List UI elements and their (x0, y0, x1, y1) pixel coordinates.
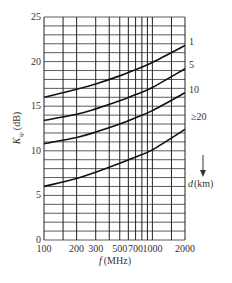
grid (44, 17, 185, 240)
x-tick-label: 2000 (175, 243, 195, 254)
series-label: 5 (189, 59, 194, 70)
x-tick-label: 300 (88, 243, 103, 254)
y-axis-label: Ksp(dB) (11, 112, 24, 145)
series-label: ≥20 (191, 111, 207, 122)
x-tick-label: 700 (128, 243, 143, 254)
curve-d-1 (44, 46, 185, 98)
x-tick-label: 100 (37, 243, 52, 254)
chart: 0510152025 10020030050070010002000 1510≥… (0, 0, 232, 283)
curve-d-10 (44, 93, 185, 144)
x-tick-label: 200 (69, 243, 84, 254)
x-tick-label: 500 (112, 243, 127, 254)
y-tick-label: 10 (31, 145, 41, 156)
series-label: 10 (189, 84, 199, 95)
y-tick-label: 15 (31, 100, 41, 111)
y-tick-label: 5 (36, 189, 41, 200)
curve-d-5 (44, 69, 185, 121)
y-tick-label: 25 (31, 11, 41, 22)
y-axis-ticks: 0510152025 (31, 11, 41, 245)
legend-title: d(km) (188, 178, 213, 190)
legend-arrow (200, 155, 206, 177)
curves (44, 46, 185, 187)
y-tick-label: 20 (31, 56, 41, 67)
x-tick-label: 1000 (142, 243, 162, 254)
series-labels: 1510≥20 (189, 36, 207, 122)
x-axis-label: f(MHz) (99, 255, 131, 267)
x-axis-ticks: 10020030050070010002000 (37, 243, 196, 254)
series-label: 1 (189, 36, 194, 47)
svg-text:Ksp(dB): Ksp(dB) (11, 112, 24, 145)
